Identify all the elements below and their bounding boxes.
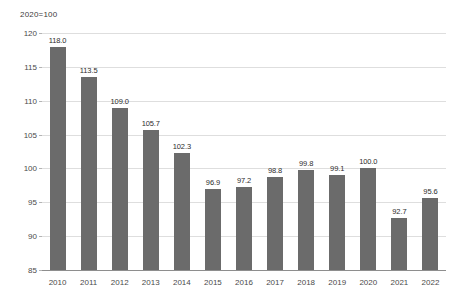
bar-value-label: 100.0 <box>359 157 377 166</box>
y-tick-mark <box>39 168 42 169</box>
bar-chart: 2020=100 859095100105110115120 118.02010… <box>0 0 466 303</box>
bar-group: 99.12019 <box>329 33 345 270</box>
bar-value-label: 109.0 <box>111 97 129 106</box>
bar[interactable] <box>360 168 376 270</box>
x-tick-label: 2019 <box>328 278 346 287</box>
bar-value-label: 113.5 <box>80 66 98 75</box>
bar-value-label: 95.6 <box>423 187 437 196</box>
bar[interactable] <box>236 187 252 270</box>
bar[interactable] <box>267 177 283 270</box>
bar-group: 100.02020 <box>360 33 376 270</box>
x-tick-label: 2022 <box>422 278 440 287</box>
y-tick-label: 90 <box>28 232 37 241</box>
bar[interactable] <box>391 218 407 270</box>
bar-group: 102.32014 <box>174 33 190 270</box>
bar-group: 98.82017 <box>267 33 283 270</box>
x-tick-label: 2016 <box>235 278 253 287</box>
bar-group: 92.72021 <box>391 33 407 270</box>
y-tick-mark <box>39 101 42 102</box>
y-tick-mark <box>39 202 42 203</box>
bar-group: 118.02010 <box>50 33 66 270</box>
x-tick-label: 2021 <box>390 278 408 287</box>
bar-value-label: 102.3 <box>173 142 191 151</box>
y-tick-mark <box>39 135 42 136</box>
bar-value-label: 96.9 <box>206 178 220 187</box>
bar-group: 113.52011 <box>81 33 97 270</box>
x-tick-label: 2017 <box>266 278 284 287</box>
bar[interactable] <box>50 47 66 270</box>
y-tick-mark <box>39 67 42 68</box>
bar-value-label: 92.7 <box>392 207 406 216</box>
axis-baseline <box>42 270 446 271</box>
x-tick-label: 2011 <box>80 278 97 287</box>
y-tick-mark <box>39 270 42 271</box>
x-tick-label: 2010 <box>49 278 67 287</box>
bar-group: 99.82018 <box>298 33 314 270</box>
bar[interactable] <box>205 189 221 270</box>
bar[interactable] <box>329 175 345 270</box>
y-tick-mark <box>39 33 42 34</box>
bar-group: 96.92015 <box>205 33 221 270</box>
x-tick-label: 2015 <box>204 278 222 287</box>
bar[interactable] <box>112 108 128 271</box>
bar-value-label: 105.7 <box>142 119 160 128</box>
x-tick-label: 2020 <box>359 278 377 287</box>
bar[interactable] <box>422 198 438 270</box>
y-tick-label: 85 <box>28 266 37 275</box>
bar[interactable] <box>143 130 159 270</box>
bar-group: 95.62022 <box>422 33 438 270</box>
bar[interactable] <box>81 77 97 270</box>
y-tick-label: 110 <box>24 97 37 106</box>
bar-value-label: 98.8 <box>268 166 282 175</box>
bar-value-label: 118.0 <box>49 36 67 45</box>
bar[interactable] <box>298 170 314 270</box>
bar-value-label: 99.1 <box>330 164 344 173</box>
y-tick-mark <box>39 236 42 237</box>
y-tick-label: 100 <box>24 164 37 173</box>
bar[interactable] <box>174 153 190 270</box>
index-base-note: 2020=100 <box>20 10 57 19</box>
y-tick-label: 115 <box>24 63 37 72</box>
y-tick-label: 120 <box>24 29 37 38</box>
bar-value-label: 97.2 <box>237 176 251 185</box>
bar-group: 105.72013 <box>143 33 159 270</box>
y-tick-label: 105 <box>24 131 37 140</box>
x-tick-label: 2018 <box>297 278 315 287</box>
bar-value-label: 99.8 <box>299 159 313 168</box>
plot-area: 859095100105110115120 118.02010113.52011… <box>42 33 446 270</box>
y-tick-label: 95 <box>28 198 37 207</box>
x-tick-label: 2013 <box>142 278 160 287</box>
x-tick-label: 2012 <box>111 278 129 287</box>
bar-group: 97.22016 <box>236 33 252 270</box>
x-tick-label: 2014 <box>173 278 191 287</box>
bar-group: 109.02012 <box>112 33 128 270</box>
